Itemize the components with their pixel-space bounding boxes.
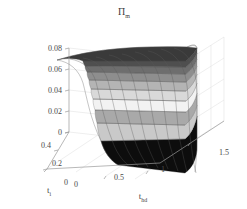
plot-canvas: 0.08 0.06 0.04 0.02 0 0.4 0.2 0 ti 0 0.5… [0,0,247,209]
y-tick-label: 0.2 [52,159,62,168]
y-tick-label: 0.4 [41,141,51,150]
x-tick-label: 1 [161,165,165,174]
x-axis-label: thd [139,191,148,203]
surface-mesh [57,45,197,173]
x-tick-label: 0 [74,180,78,189]
z-tick-label: 0.06 [48,65,62,74]
x-tick-label: 0.5 [114,173,124,182]
y-axis-ticks: 0.4 0.2 0 ti [41,132,69,197]
z-tick-label: 0.02 [48,107,62,116]
plot-title: Πm [118,6,130,19]
z-tick-label: 0.08 [48,44,62,53]
y-tick-label: 0 [64,178,68,187]
z-tick-label: 0 [58,128,62,137]
figure-3d-surface-plot: 0.08 0.06 0.04 0.02 0 0.4 0.2 0 ti 0 0.5… [0,0,247,209]
z-tick-label: 0.04 [48,86,62,95]
x-tick-label: 1.5 [219,148,229,157]
y-axis-label: ti [47,185,52,197]
